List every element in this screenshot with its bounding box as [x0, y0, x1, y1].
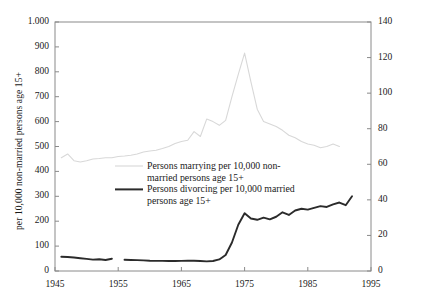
- y-axis-left-tick-label: 0: [9, 265, 49, 275]
- y-axis-left-tick-label: 800: [9, 66, 49, 76]
- y-axis-left-tick-label: 600: [9, 116, 49, 126]
- y-axis-right-tick-label: 100: [378, 87, 418, 97]
- plot-frame: [55, 22, 371, 271]
- x-axis-tick-label: 1985: [278, 279, 338, 289]
- y-axis-left-tick-label: 700: [9, 91, 49, 101]
- chart-container: per 10,000 non-married persons age 15+ p…: [0, 0, 421, 299]
- y-axis-left-tick-label: 200: [9, 215, 49, 225]
- x-axis-tick-label: 1945: [25, 279, 85, 289]
- x-axis-tick-label: 1995: [341, 279, 401, 289]
- chart-plot-area: [0, 0, 421, 299]
- y-axis-left-tick-label: 1.000: [9, 16, 49, 26]
- y-axis-left-tick-label: 500: [9, 141, 49, 151]
- data-series-line: [61, 53, 339, 162]
- y-axis-left-tick-label: 300: [9, 190, 49, 200]
- y-axis-right-tick-label: 20: [378, 229, 418, 239]
- y-axis-right-tick-label: 40: [378, 194, 418, 204]
- y-axis-right-tick-label: 80: [378, 123, 418, 133]
- y-axis-right-tick-label: 60: [378, 158, 418, 168]
- data-series-line: [61, 257, 112, 260]
- legend-item-label: Persons marrying per 10,000 non- married…: [147, 160, 281, 183]
- y-axis-right-tick-label: 0: [378, 265, 418, 275]
- y-axis-left-tick-label: 900: [9, 41, 49, 51]
- y-axis-left-tick-label: 400: [9, 165, 49, 175]
- x-axis-tick-label: 1955: [88, 279, 148, 289]
- x-axis-tick-label: 1965: [151, 279, 211, 289]
- y-axis-right-tick-label: 140: [378, 16, 418, 26]
- legend-item-label: Persons divorcing per 10,000 married per…: [147, 183, 295, 206]
- y-axis-left-tick-label: 100: [9, 240, 49, 250]
- x-axis-tick-label: 1975: [215, 279, 275, 289]
- y-axis-right-tick-label: 120: [378, 52, 418, 62]
